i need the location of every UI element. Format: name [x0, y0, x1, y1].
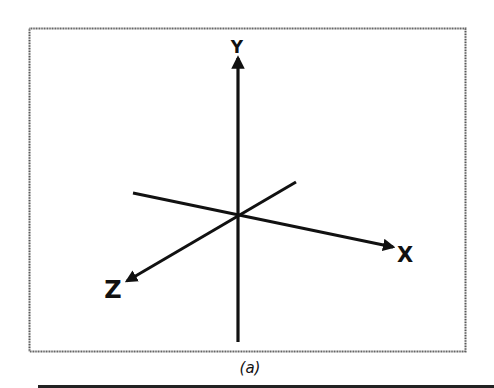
figure-caption: (a): [240, 359, 261, 377]
coordinate-axes-figure: Y X Z (a): [0, 0, 494, 388]
figure-frame: [30, 29, 466, 352]
y-axis-label: Y: [230, 37, 244, 57]
z-axis-label: Z: [104, 276, 121, 304]
x-axis-label: X: [397, 243, 413, 267]
